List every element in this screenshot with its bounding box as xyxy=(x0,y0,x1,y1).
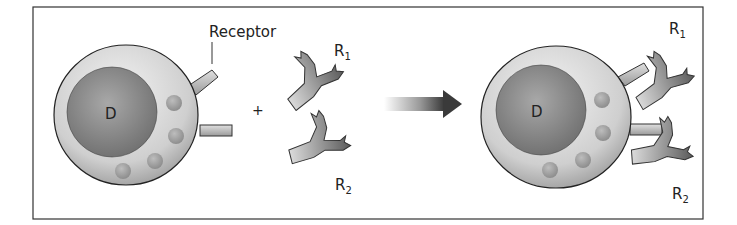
drug-label: D xyxy=(105,105,117,123)
granule xyxy=(115,163,131,179)
granule xyxy=(168,128,184,144)
granule xyxy=(166,95,182,111)
granule xyxy=(595,125,611,141)
granule xyxy=(575,152,591,168)
receptor-lower xyxy=(200,125,232,136)
binding-diagram: D Receptor + R1 R2 D R1 R2 xyxy=(0,0,737,225)
granule xyxy=(594,92,610,108)
drug-label-bound: D xyxy=(531,103,543,121)
granule xyxy=(147,153,163,169)
receptor-lower-bound xyxy=(630,124,662,135)
plus-sign: + xyxy=(252,102,264,118)
receptor-label: Receptor xyxy=(209,23,277,41)
granule xyxy=(542,162,558,178)
